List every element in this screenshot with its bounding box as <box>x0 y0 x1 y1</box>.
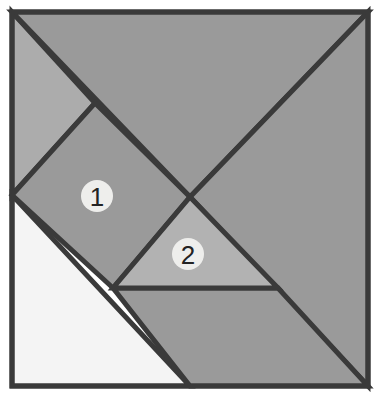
label-one-text: 1 <box>90 182 104 212</box>
label-one-group: 1 <box>81 180 113 212</box>
label-two-group: 2 <box>172 238 204 270</box>
label-two-text: 2 <box>181 240 195 270</box>
tangram-figure: 1 2 <box>0 0 380 402</box>
tangram-canvas: 1 2 <box>0 0 380 402</box>
